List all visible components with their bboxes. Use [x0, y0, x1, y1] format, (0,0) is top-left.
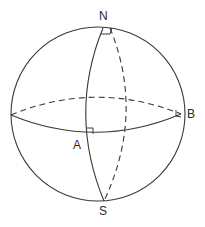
sphere-figure	[0, 0, 205, 227]
front-meridian	[86, 28, 104, 201]
right-angle-marker-a	[87, 128, 93, 134]
label-north: N	[99, 10, 108, 22]
back-meridian	[104, 28, 126, 201]
sphere-diagram: N B A S	[0, 0, 205, 227]
sphere-outline	[11, 27, 185, 201]
front-equator	[11, 114, 181, 132]
back-equator	[11, 97, 181, 115]
label-south: S	[99, 205, 107, 217]
label-a: A	[73, 139, 81, 151]
label-b: B	[187, 108, 195, 120]
